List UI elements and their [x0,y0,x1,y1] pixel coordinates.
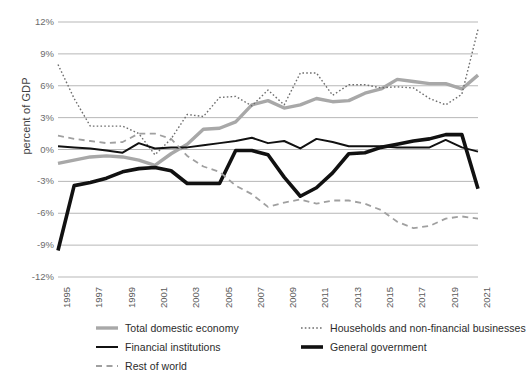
x-axis-tick-label: 2017 [417,287,427,308]
legend-swatch-icon [301,323,323,333]
y-axis-tick-label: 9% [20,49,54,59]
x-axis-tick-label: 1999 [127,287,137,308]
x-axis-tick-label: 2013 [353,287,363,308]
y-axis-tick-label: 6% [20,81,54,91]
legend-item[interactable]: Households and non-financial businesses [301,322,526,334]
legend-item[interactable]: General government [301,341,427,353]
legend-swatch-icon [96,342,118,352]
y-axis-tick-label: 12% [20,17,54,27]
x-axis-tick-label: 2003 [191,287,201,308]
x-axis-tick-label: 1997 [94,287,104,308]
x-axis-tick-label: 1995 [62,287,72,308]
chart-legend: Total domestic economyHouseholds and non… [96,322,486,378]
y-axis-tick-label: -3% [20,177,54,187]
y-axis-tick-label: 0% [20,145,54,155]
x-axis-tick-label: 2009 [288,287,298,308]
x-axis-tick-label: 2019 [450,287,460,308]
legend-swatch-icon [96,323,118,333]
y-axis-tick-label: -12% [20,272,54,282]
legend-swatch-icon [96,361,118,371]
x-axis-tick-label: 2015 [385,287,395,308]
y-axis-tick-label: -6% [20,209,54,219]
x-axis-tick-label: 2021 [482,287,492,308]
legend-item[interactable]: Rest of world [96,360,187,372]
legend-swatch-icon [301,342,323,352]
legend-item-label: General government [330,341,427,353]
y-axis-tick-labels: 12%9%6%3%0%-3%-6%-9%-12% [18,0,54,379]
series-line [58,29,478,154]
legend-item-label: Households and non-financial businesses [330,322,526,334]
legend-item-label: Rest of world [125,360,187,372]
legend-item-label: Financial institutions [125,341,221,353]
x-axis-tick-label: 2007 [256,287,266,308]
legend-item[interactable]: Total domestic economy [96,322,239,334]
x-axis-tick-label: 2005 [224,287,234,308]
legend-item-label: Total domestic economy [125,322,239,334]
x-axis-tick-label: 2011 [320,288,330,308]
y-axis-tick-label: -9% [20,240,54,250]
legend-item[interactable]: Financial institutions [96,341,221,353]
y-axis-tick-label: 3% [20,113,54,123]
x-axis-tick-label: 2001 [159,287,169,308]
